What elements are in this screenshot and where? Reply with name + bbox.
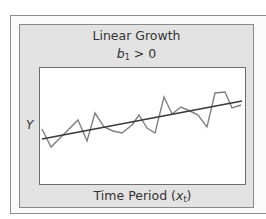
trend-line — [42, 101, 242, 139]
chart-svg — [0, 0, 266, 219]
